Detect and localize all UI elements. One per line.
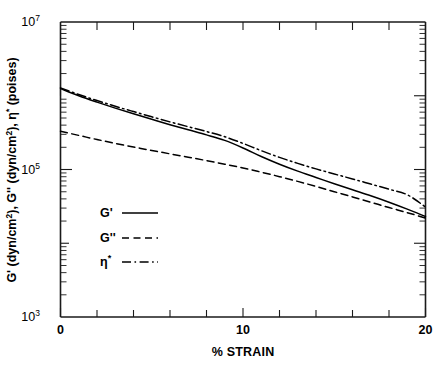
y-tick-label-10e5: 105 (21, 161, 40, 177)
y-tick-label-10e7: 107 (21, 13, 40, 29)
x-tick-label-10: 10 (236, 323, 250, 337)
legend-item-eta-star: η* (100, 253, 158, 269)
x-ticks-top (97, 22, 389, 30)
legend-label-eta-star: η* (100, 253, 112, 269)
y-ticks-right (414, 25, 426, 294)
x-tick-labels: 0 10 20 (57, 323, 432, 337)
x-ticks-bottom (61, 308, 426, 317)
rheology-line-chart: 0 10 20 % STRAIN 107 105 103 G' (dyn/cm2… (0, 0, 448, 373)
x-tick-label-0: 0 (57, 323, 64, 337)
x-tick-label-20: 20 (419, 323, 433, 337)
y-ticks-left (61, 25, 73, 294)
y-tick-labels: 107 105 103 (21, 13, 40, 324)
data-curves (61, 88, 426, 218)
legend-label-g-double-prime: G'' (100, 231, 116, 245)
legend-item-g-double-prime: G'' (100, 231, 158, 245)
legend-item-g-prime: G' (100, 206, 158, 220)
chart-page: 0 10 20 % STRAIN 107 105 103 G' (dyn/cm2… (0, 0, 448, 373)
y-tick-label-10e3: 103 (21, 308, 40, 324)
legend-label-g-prime: G' (100, 206, 113, 220)
chart-legend: G' G'' η* (100, 206, 158, 269)
series-line-g-prime (61, 89, 426, 217)
series-line-g-double-prime (61, 131, 426, 218)
x-axis-title: % STRAIN (212, 345, 275, 359)
y-axis-title: G' (dyn/cm2), G'' (dyn/cm2), η* (poises) (4, 57, 19, 282)
plot-frame (61, 22, 426, 317)
